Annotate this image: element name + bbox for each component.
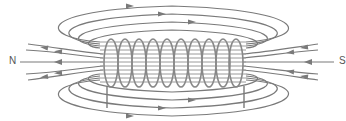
south-pole-label: S [339,56,346,66]
bottom-field-loops [58,74,288,116]
loop-arrows [126,4,196,119]
north-pole-label: N [9,56,16,66]
right-external-lines [243,44,334,80]
